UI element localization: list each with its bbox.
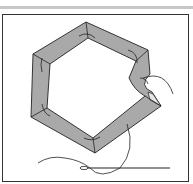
fabric-ring — [31, 22, 161, 153]
needle-icon — [80, 166, 170, 169]
hexagon-patch-illustration — [0, 0, 193, 184]
